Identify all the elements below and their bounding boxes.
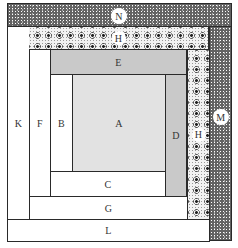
piece-l: L [7, 219, 210, 242]
piece-h-label: H [195, 129, 203, 140]
label-h: H [192, 128, 206, 142]
piece-b-label: B [58, 118, 65, 129]
piece-e: E [50, 49, 187, 75]
piece-a-label: A [115, 118, 123, 129]
piece-d-label: D [172, 130, 180, 141]
piece-j: H [29, 26, 209, 50]
label-m: M [213, 109, 229, 125]
piece-k-label: K [15, 118, 23, 129]
piece-a: A [72, 74, 166, 172]
piece-e-label: E [115, 57, 122, 68]
piece-c: C [50, 171, 166, 197]
piece-f: F [29, 49, 51, 197]
label-j: H [112, 31, 126, 45]
piece-g: G [29, 196, 188, 220]
piece-n-label: N [115, 11, 123, 22]
piece-f-label: F [37, 118, 43, 129]
piece-b: B [50, 74, 73, 172]
piece-h: H [187, 49, 210, 220]
piece-m: M [209, 26, 232, 241]
label-n: N [111, 8, 127, 24]
piece-k: K [7, 26, 30, 220]
piece-d: D [165, 74, 187, 197]
piece-c-label: C [104, 179, 111, 190]
piece-g-label: G [105, 203, 113, 214]
piece-l-label: L [105, 225, 112, 236]
piece-m-label: M [216, 112, 225, 123]
piece-j-label: H [115, 33, 123, 44]
piece-n: N [7, 3, 232, 27]
